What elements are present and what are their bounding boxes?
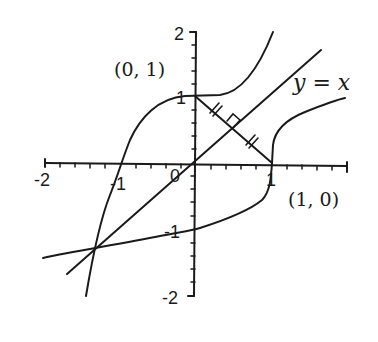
y-tick-label: 1 (176, 88, 186, 108)
point-label-0-1: (0, 1) (114, 58, 165, 80)
y-tick-label: 2 (174, 24, 184, 44)
y-tick-label: -2 (162, 288, 178, 308)
x-tick-label: -2 (34, 170, 50, 190)
perpendicular-segment (195, 96, 272, 163)
point-label-1-0: (1, 0) (288, 188, 339, 210)
line-equation-label: y = x (292, 70, 351, 95)
x-tick-label: -1 (110, 174, 126, 194)
x-tick-label: 0 (170, 166, 180, 186)
graph-svg: -2 -1 0 1 2 1 -1 -2 (0, 1) (1, 0) y = x (0, 0, 378, 342)
x-tick-label: 1 (266, 170, 276, 190)
diagram-canvas: -2 -1 0 1 2 1 -1 -2 (0, 1) (1, 0) y = x (0, 0, 378, 342)
y-tick-label: -1 (164, 222, 180, 242)
